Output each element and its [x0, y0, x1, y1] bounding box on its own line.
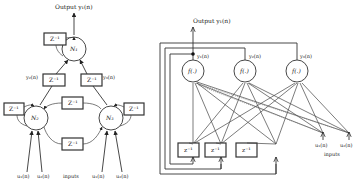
left-inputs-caption: inputs [63, 173, 79, 180]
neuron-f1: f(.) [182, 60, 204, 82]
delay-box-3: z⁻¹ [236, 143, 257, 157]
neuron-f2: f(.) [234, 60, 256, 82]
svg-text:N₁: N₁ [69, 45, 78, 52]
delay-box-1: z⁻¹ [178, 143, 199, 157]
neuron-1-output-label: y₁(n) [196, 53, 209, 60]
svg-text:Z⁻¹: Z⁻¹ [49, 76, 59, 83]
right-input-u2: u₂(n) [340, 142, 352, 148]
left-input-u1-n3: u₁(n) [92, 173, 104, 179]
diagram-figure: Output y₁(n) N₁ Z⁻¹ y₂(n) Z⁻¹ y₃(n) Z⁻¹ [0, 0, 359, 182]
svg-text:z⁻¹: z⁻¹ [184, 146, 193, 153]
svg-text:N₃: N₃ [105, 114, 114, 121]
svg-text:Z⁻¹: Z⁻¹ [87, 76, 97, 83]
svg-text:Z⁻¹: Z⁻¹ [129, 105, 139, 112]
node-n2: N₂ [24, 106, 48, 130]
svg-text:f(.): f(.) [291, 67, 301, 75]
node-n3: N₃ [99, 106, 123, 130]
n1-self-delay-box: Z⁻¹ [44, 33, 66, 45]
y2-delay-box: Z⁻¹ [43, 74, 65, 86]
y3-delay-box: Z⁻¹ [81, 74, 102, 86]
y2-label: y₂(n) [25, 74, 38, 81]
delay-box-2: z⁻¹ [205, 143, 226, 157]
right-input-u1: u₁(n) [315, 142, 327, 148]
svg-text:Z⁻¹: Z⁻¹ [68, 140, 78, 147]
svg-text:z⁻¹: z⁻¹ [211, 146, 220, 153]
left-input-u2-n3: u₂(n) [116, 173, 128, 179]
left-recurrent-network: Output y₁(n) N₁ Z⁻¹ y₂(n) Z⁻¹ y₃(n) Z⁻¹ [4, 3, 144, 180]
left-output-label: Output y₁(n) [55, 3, 93, 11]
svg-text:f(.): f(.) [187, 67, 197, 75]
n2-self-delay-box: Z⁻¹ [4, 103, 24, 115]
neuron-2-output-label: y₂(n) [248, 53, 261, 60]
n3-self-delay-box: Z⁻¹ [124, 103, 144, 115]
y3-label: y₃(n) [102, 74, 115, 81]
svg-text:Z⁻¹: Z⁻¹ [50, 35, 60, 42]
svg-text:N₂: N₂ [30, 114, 39, 121]
neuron-f3: f(.) [286, 60, 308, 82]
lower-cross-delay-box: Z⁻¹ [62, 138, 83, 150]
right-output-label: Output y₁(n) [193, 17, 231, 25]
right-inputs-caption: inputs [324, 151, 340, 158]
upper-cross-delay-box: Z⁻¹ [62, 97, 83, 109]
right-recurrent-network: Output y₁(n) y₁(n) y₂(n) y₃(n) [160, 17, 352, 174]
neuron-3-output-label: y₃(n) [299, 53, 312, 60]
left-input-u2-n2: u₂(n) [37, 173, 49, 179]
svg-text:Z⁻¹: Z⁻¹ [68, 99, 78, 106]
svg-text:z⁻¹: z⁻¹ [242, 146, 251, 153]
weight-connections [193, 82, 349, 144]
svg-text:f(.): f(.) [239, 67, 249, 75]
left-input-u1-n2: u₁(n) [17, 173, 29, 179]
svg-text:Z⁻¹: Z⁻¹ [9, 105, 19, 112]
